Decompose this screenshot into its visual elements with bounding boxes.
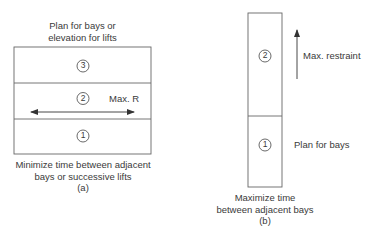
cell-a2-number: 2 bbox=[77, 93, 89, 105]
cell-b1-number: 1 bbox=[259, 139, 271, 151]
diagram-a-caption-line1: Minimize time between adjacent bbox=[0, 159, 166, 171]
cell-a1-number: 1 bbox=[77, 130, 89, 142]
cell-b2-number: 2 bbox=[259, 50, 271, 62]
max-restraint-label: Max. restraint bbox=[303, 50, 361, 62]
plan-for-bays-label: Plan for bays bbox=[294, 139, 349, 151]
max-r-label: Max. R bbox=[109, 93, 139, 105]
diagram-b-caption-line1: Maximize time bbox=[215, 192, 315, 204]
diagram-b-tag: (b) bbox=[215, 215, 315, 227]
diagram-b-caption: Maximize time between adjacent bays (b) bbox=[215, 192, 315, 227]
cell-a3-number: 3 bbox=[77, 60, 89, 72]
diagram-a-title-line2: elevation for lifts bbox=[14, 32, 151, 44]
diagram-a-tag: (a) bbox=[0, 182, 166, 194]
diagram-b-box bbox=[248, 13, 282, 187]
diagram-a-caption-line2: bays or successive lifts bbox=[0, 171, 166, 183]
diagram-a-title: Plan for bays or elevation for lifts bbox=[14, 20, 151, 43]
diagram-b-caption-line2: between adjacent bays bbox=[215, 204, 315, 216]
diagram-a-caption: Minimize time between adjacent bays or s… bbox=[0, 159, 166, 194]
diagram-a-title-line1: Plan for bays or bbox=[14, 20, 151, 32]
